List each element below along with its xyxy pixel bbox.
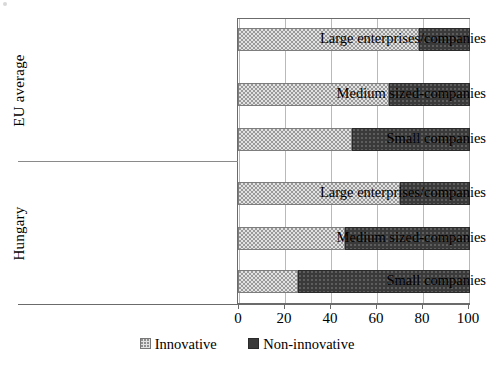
gridline-60 [377, 19, 378, 303]
chart-legend: Innovative Non-innovative [0, 336, 494, 353]
bar-segment-innovative [238, 128, 352, 151]
x-tick-label-80: 80 [402, 310, 442, 327]
gridline-40 [331, 19, 332, 303]
bar-segment-innovative [238, 270, 298, 293]
x-tick-label-40: 40 [310, 310, 350, 327]
group-label-eu-average: EU average [11, 19, 28, 162]
x-tick-60 [376, 304, 377, 309]
x-tick-20 [284, 304, 285, 309]
stacked-bar-chart: EU average Hungary Large enterprises/com… [0, 0, 494, 367]
legend-label-innovative: Innovative [155, 336, 217, 352]
category-label-hu-medium: Medium sized-companies [337, 227, 486, 247]
legend-swatch-innovative-icon [140, 338, 151, 349]
x-tick-label-20: 20 [264, 310, 304, 327]
gridline-0 [239, 19, 240, 303]
category-label-eu-large: Large enterprises/companies [320, 28, 486, 48]
legend-entry-non-innovative[interactable]: Non-innovative [248, 336, 354, 353]
category-label-eu-medium: Medium sized-companies [337, 83, 486, 103]
group-divider [18, 161, 238, 162]
legend-swatch-non-innovative-icon [248, 338, 259, 349]
gridline-20 [285, 19, 286, 303]
x-tick-80 [422, 304, 423, 309]
category-label-hu-large: Large enterprises/companies [320, 182, 486, 202]
category-label-hu-small: Small companies [387, 270, 486, 290]
gridline-80 [423, 19, 424, 303]
bar-segment-innovative [238, 227, 345, 250]
x-tick-label-100: 100 [448, 310, 488, 327]
x-tick-40 [330, 304, 331, 309]
category-label-eu-small: Small companies [387, 128, 486, 148]
x-tick-label-60: 60 [356, 310, 396, 327]
group-label-hungary: Hungary [11, 162, 28, 305]
gridline-100 [469, 19, 470, 303]
x-tick-label-0: 0 [218, 310, 258, 327]
x-tick-100 [468, 304, 469, 309]
x-tick-0 [238, 304, 239, 309]
legend-label-non-innovative: Non-innovative [263, 336, 354, 352]
legend-entry-innovative[interactable]: Innovative [140, 336, 217, 353]
x-axis-line [18, 304, 470, 305]
scan-artifact [3, 2, 7, 6]
